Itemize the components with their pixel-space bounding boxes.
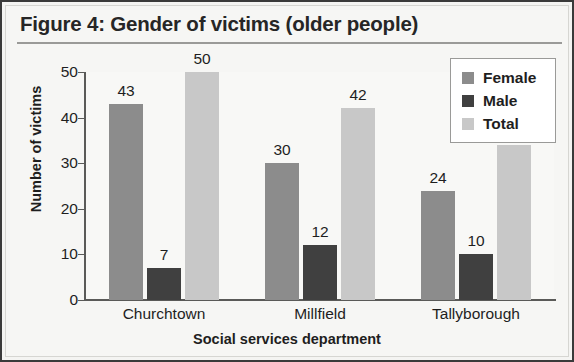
y-axis-tick: 40 [14, 118, 78, 119]
legend-swatch-icon [462, 95, 474, 107]
y-axis-tick: 20 [14, 209, 78, 210]
bar-value-label: 43 [97, 82, 155, 100]
bar-value-label: 50 [173, 50, 231, 68]
y-axis-tick-mark [78, 72, 84, 73]
bar-female-churchtown [109, 104, 143, 300]
bar-value-label: 42 [329, 86, 387, 104]
figure-container: Figure 4: Gender of victims (older peopl… [0, 0, 574, 362]
x-axis-category-tallyborough: Tallyborough [398, 305, 554, 323]
y-axis-tick-label: 10 [22, 245, 78, 263]
y-axis-tick-label: 0 [22, 291, 78, 309]
y-axis-tick-mark [78, 209, 84, 210]
y-axis-title: Number of victims [28, 59, 44, 239]
legend-item-male: Male [451, 89, 555, 112]
y-axis-tick-mark [78, 118, 84, 119]
figure-title: Figure 4: Gender of victims (older peopl… [20, 12, 418, 36]
chart-legend: FemaleMaleTotal [450, 58, 556, 143]
legend-item-label: Female [483, 70, 536, 86]
legend-item-label: Total [483, 116, 519, 132]
y-axis-tick: 0 [14, 300, 78, 301]
x-axis-category-millfield: Millfield [242, 305, 398, 323]
x-axis-category-churchtown: Churchtown [86, 305, 242, 323]
y-axis-tick: 30 [14, 163, 78, 164]
y-axis-tick-mark [78, 254, 84, 255]
legend-item-female: Female [451, 66, 555, 89]
y-axis-tick-mark [78, 300, 84, 301]
bar-total-churchtown [185, 72, 219, 300]
y-axis-tick-mark [78, 163, 84, 164]
y-axis-tick: 10 [14, 254, 78, 255]
bar-male-tallyborough [459, 254, 493, 300]
bar-value-label: 24 [409, 169, 467, 187]
y-axis-tick: 50 [14, 72, 78, 73]
x-axis-title: Social services department [6, 331, 568, 347]
legend-swatch-icon [462, 118, 474, 130]
legend-item-total: Total [451, 112, 555, 135]
legend-swatch-icon [462, 72, 474, 84]
legend-item-label: Male [483, 93, 517, 109]
bar-value-label: 30 [253, 141, 311, 159]
title-divider [17, 42, 562, 44]
bar-total-millfield [341, 108, 375, 300]
bar-male-millfield [303, 245, 337, 300]
bar-total-tallyborough [497, 145, 531, 300]
bar-male-churchtown [147, 268, 181, 300]
figure-inner-panel: Figure 4: Gender of victims (older peopl… [5, 5, 569, 357]
